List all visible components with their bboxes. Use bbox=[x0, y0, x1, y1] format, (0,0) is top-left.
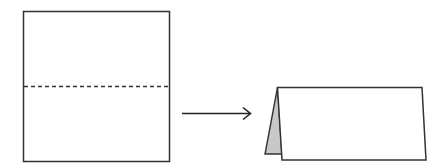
fold-diagram bbox=[0, 0, 448, 168]
folded-tent-card bbox=[265, 88, 426, 161]
transition-arrow bbox=[182, 108, 251, 120]
front-face bbox=[278, 88, 427, 161]
diagram-canvas bbox=[0, 0, 448, 168]
unfolded-sheet bbox=[24, 12, 170, 162]
